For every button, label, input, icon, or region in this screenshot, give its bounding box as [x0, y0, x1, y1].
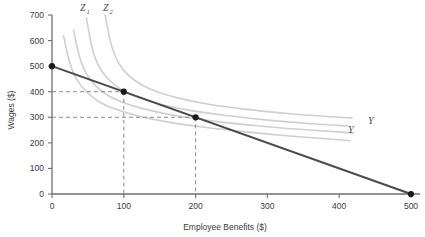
x-tick-label: 0 — [50, 201, 55, 211]
axes-group — [52, 15, 420, 194]
y-tick-label: 500 — [30, 61, 44, 71]
y-tick-label: 100 — [30, 163, 44, 173]
y-axis-ticks: 0100200300400500600700 — [30, 10, 52, 199]
x-tick-label: 200 — [189, 201, 203, 211]
x-tick-label: 300 — [260, 201, 274, 211]
x-tick-label: 100 — [117, 201, 131, 211]
x-tick-label: 500 — [404, 201, 418, 211]
indifference-curve-chart: 0100200300400500600700 0100200300400500 … — [0, 0, 425, 237]
y-axis-title: Wages ($) — [6, 90, 16, 129]
budget-line-group — [52, 66, 411, 194]
indifference-curve-4 — [105, 15, 352, 118]
y-tick-label: 400 — [30, 87, 44, 97]
x-tick-label: 400 — [332, 201, 346, 211]
x-axis-title: Employee Benefits ($) — [183, 222, 267, 232]
chart-container: 0100200300400500600700 0100200300400500 … — [0, 0, 425, 237]
endpoint-benefit-intercept — [408, 191, 414, 197]
y-tick-label: 700 — [30, 10, 44, 20]
budget-line — [52, 66, 411, 194]
y-tick-label: 300 — [30, 112, 44, 122]
label-z1-subscript: 1 — [87, 8, 90, 15]
tangency-point-2 — [193, 114, 199, 120]
y-tick-label: 200 — [30, 138, 44, 148]
endpoint-wage-intercept — [49, 63, 55, 69]
tangency-point-1 — [121, 89, 127, 95]
indifference-curve-1 — [63, 35, 349, 140]
label-y-upper: Y — [368, 115, 375, 126]
label-z1: Z — [80, 2, 86, 13]
x-axis-ticks: 0100200300400500 — [50, 194, 419, 211]
label-z2-subscript: 2 — [110, 8, 114, 15]
label-z2: Z — [103, 2, 109, 13]
y-tick-label: 600 — [30, 36, 44, 46]
y-tick-label: 0 — [39, 189, 44, 199]
